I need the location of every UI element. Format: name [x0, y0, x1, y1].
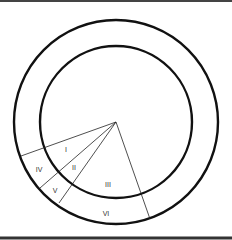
radial-line-1	[21, 122, 116, 156]
region-label-ii: II	[72, 164, 76, 171]
radial-line-2	[40, 122, 116, 188]
diagram-frame: I II III IV V VI	[0, 0, 232, 240]
region-label-i: I	[65, 146, 67, 153]
region-label-vi: VI	[103, 210, 110, 217]
region-label-v: V	[53, 187, 58, 194]
sector-diagram: I II III IV V VI	[0, 0, 232, 240]
region-label-iii: III	[105, 181, 111, 188]
region-label-iv: IV	[36, 166, 43, 173]
radial-line-4	[116, 122, 150, 219]
radial-line-3	[59, 122, 116, 203]
